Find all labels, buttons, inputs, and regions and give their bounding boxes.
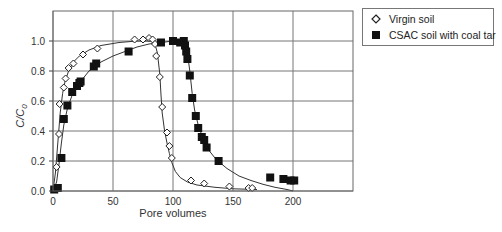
- y-tick-label: 0.8: [31, 66, 45, 77]
- y-tick-label: 0.4: [31, 126, 45, 137]
- x-tick-label: 100: [165, 196, 182, 207]
- diamond-marker: [60, 84, 67, 91]
- y-axis-label-sub: 0: [20, 104, 29, 109]
- x-tick-label: 0: [50, 196, 56, 207]
- y-tick-label: 0.6: [31, 96, 45, 107]
- square-marker: [182, 48, 190, 56]
- diamond-marker: [62, 75, 69, 82]
- diamond-marker: [159, 104, 166, 111]
- square-marker: [60, 115, 68, 123]
- y-tick-label: 0.0: [31, 186, 45, 197]
- diamond-marker: [153, 53, 160, 60]
- square-marker: [183, 55, 191, 63]
- square-marker: [188, 94, 196, 102]
- square-marker: [157, 39, 165, 47]
- diamond-marker: [156, 74, 163, 81]
- grid-lines: [53, 11, 353, 191]
- legend-item-virgin-soil: Virgin soil: [369, 13, 434, 25]
- y-tick-label: 1.0: [31, 36, 45, 47]
- diamond-marker: [168, 155, 175, 162]
- legend-item-csac-soil: CSAC soil with coal tar: [369, 29, 496, 41]
- svg-text:C/C0: C/C0: [14, 104, 29, 128]
- square-marker: [77, 78, 85, 86]
- square-marker: [203, 144, 211, 152]
- legend-label: CSAC soil with coal tar: [389, 29, 496, 41]
- square-marker: [63, 102, 71, 110]
- y-axis-label-main: C/C: [14, 109, 26, 128]
- square-marker: [215, 157, 223, 165]
- y-tick-labels: 0.00.20.40.60.81.0: [31, 36, 45, 197]
- y-axis-label: C/C0: [14, 104, 29, 128]
- legend: Virgin soil CSAC soil with coal tar: [362, 8, 494, 46]
- legend-label: Virgin soil: [389, 13, 434, 25]
- diamond-marker: [140, 36, 147, 43]
- square-marker: [192, 112, 200, 120]
- square-marker: [92, 60, 100, 68]
- square-marker: [186, 72, 194, 80]
- y-tick-label: 0.2: [31, 156, 45, 167]
- square-marker: [290, 177, 298, 185]
- square-marker: [125, 48, 133, 56]
- square-marker: [266, 174, 274, 182]
- diamond-marker: [56, 131, 63, 138]
- diamond-marker: [188, 177, 195, 184]
- square-marker: [194, 124, 202, 132]
- x-tick-labels: 050100150200: [50, 196, 302, 207]
- diamond-marker: [131, 36, 138, 43]
- x-tick-label: 150: [225, 196, 242, 207]
- x-tick-label: 50: [107, 196, 119, 207]
- open-diamond-icon: [369, 14, 383, 24]
- square-marker: [200, 136, 208, 144]
- square-marker: [169, 37, 177, 45]
- x-axis-label: Pore volumes: [139, 207, 207, 219]
- square-marker: [279, 175, 287, 183]
- x-tick-label: 200: [285, 196, 302, 207]
- filled-square-icon: [369, 30, 383, 40]
- square-marker: [57, 154, 65, 162]
